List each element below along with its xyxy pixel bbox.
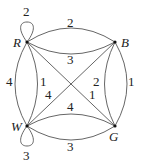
vertex-label-W: W	[11, 119, 23, 134]
weight-R-G-diagonal: 1	[89, 87, 96, 102]
edge-R-W-inner	[27, 42, 38, 126]
vertex-label-R: R	[12, 35, 21, 50]
weight-W-B-diagonal: 4	[45, 87, 52, 102]
vertex-B	[113, 40, 116, 43]
vertex-G	[113, 124, 116, 127]
weight-W-W: 3	[23, 148, 30, 163]
edge-R-W-outer	[15, 42, 27, 126]
edge-W-G-upper	[27, 114, 115, 126]
edge-R-B-upper	[27, 28, 115, 42]
vertex-W	[25, 124, 28, 127]
weight-R-W-outer: 4	[6, 74, 13, 89]
vertex-label-G: G	[109, 129, 119, 144]
weight-R-R: 2	[23, 4, 30, 19]
vertex-R	[25, 40, 28, 43]
edge-B-G-inner	[105, 42, 116, 126]
weight-R-B-upper: 2	[67, 15, 74, 30]
vertex-label-B: B	[121, 35, 129, 50]
edge-W-G-lower	[27, 126, 115, 140]
weight-R-B-lower: 3	[67, 52, 74, 67]
weight-B-G-inner: 2	[93, 74, 100, 89]
weight-W-G-upper: 4	[67, 99, 74, 114]
graph-diagram: R B W G 2 2 3 4 1 1 4 2 1 4 3 3	[0, 0, 142, 166]
weight-W-G-lower: 3	[67, 139, 74, 154]
edge-B-G-outer	[115, 42, 127, 126]
weight-B-G-outer: 1	[128, 74, 135, 89]
